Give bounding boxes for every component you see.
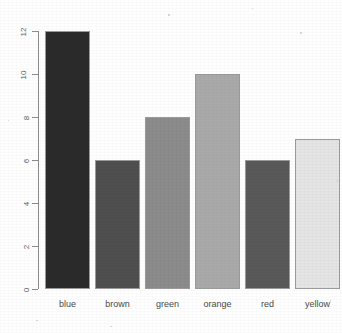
x-axis-label-brown: brown — [95, 300, 140, 309]
scan-speck — [168, 14, 170, 16]
bar-brown — [95, 160, 140, 289]
y-axis-tick-label: 8 — [23, 115, 31, 119]
x-axis-label-orange: orange — [195, 300, 240, 309]
bar-blue — [45, 31, 90, 289]
bar-green — [145, 117, 190, 289]
bar-orange — [195, 74, 240, 289]
bar-chart: 024681012 bluebrowngreenorangeredyellow — [0, 0, 342, 333]
scan-speck — [8, 120, 9, 121]
x-axis-label-green: green — [145, 300, 190, 309]
y-axis-tick: 4 — [32, 203, 38, 204]
x-axis-label-yellow: yellow — [295, 300, 340, 309]
scan-speck — [110, 326, 112, 327]
y-axis-tick: 0 — [32, 289, 38, 290]
y-axis-tick: 12 — [32, 31, 38, 32]
scan-speck — [252, 8, 253, 9]
y-axis-tick-label: 10 — [21, 70, 29, 79]
y-axis-tick: 6 — [32, 160, 38, 161]
y-axis-tick-label: 12 — [21, 27, 29, 36]
x-axis-label-blue: blue — [45, 300, 90, 309]
y-axis-tick-label: 2 — [23, 244, 31, 248]
y-axis-tick-label: 6 — [23, 158, 31, 162]
scan-speck — [36, 320, 38, 321]
x-axis-label-red: red — [245, 300, 290, 309]
y-axis-tick-label-wrap: 0 — [32, 289, 62, 290]
scan-speck — [300, 32, 302, 34]
y-axis-tick: 10 — [32, 74, 38, 75]
y-axis-tick-label: 4 — [23, 201, 31, 205]
y-axis-tick-label: 0 — [23, 287, 31, 291]
bar-yellow — [295, 139, 340, 290]
plot-area: 024681012 bluebrowngreenorangeredyellow — [0, 0, 342, 333]
bar-red — [245, 160, 290, 289]
y-axis-tick: 8 — [32, 117, 38, 118]
y-axis-tick: 2 — [32, 246, 38, 247]
